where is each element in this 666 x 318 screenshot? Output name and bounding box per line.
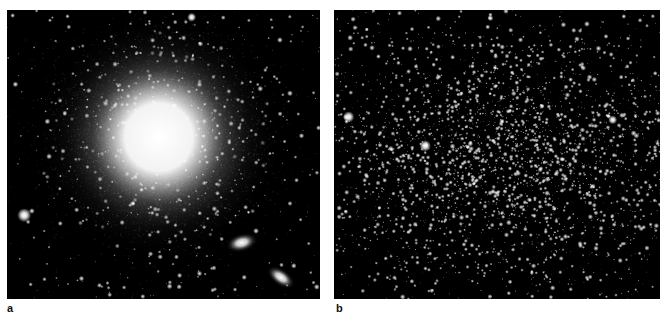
dwarf-galaxy-canvas: [334, 10, 660, 299]
panel-b-label: b: [336, 302, 343, 314]
elliptical-galaxy-canvas: [7, 10, 320, 299]
panel-a-elliptical-galaxy-image: [7, 10, 320, 299]
panel-b-dwarf-galaxy-image: [334, 10, 660, 299]
panel-a-label: a: [7, 302, 13, 314]
